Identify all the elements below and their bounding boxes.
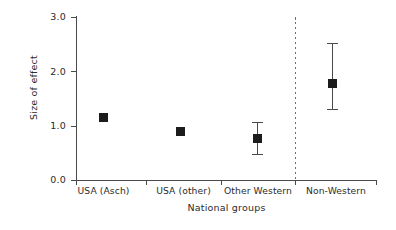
x-tick-end (376, 180, 377, 185)
data-marker-non-western (328, 79, 337, 88)
y-axis-title: Size of effect (28, 28, 39, 148)
western-nonwestern-divider (295, 17, 296, 180)
y-axis-line (76, 16, 77, 181)
x-tick-label-other-western: Other Western (218, 185, 298, 196)
y-tick-2 (71, 71, 76, 72)
x-tick-label-usa-other: USA (other) (146, 185, 221, 196)
x-tick-label-non-western: Non-Western (296, 185, 376, 196)
effect-size-chart: 3.0 2.0 1.0 0.0 USA (Asch) USA (other) O… (0, 0, 396, 230)
x-tick-label-usa-asch: USA (Asch) (66, 185, 141, 196)
y-tick-label-2: 2.0 (50, 66, 66, 77)
data-marker-usa-asch (99, 113, 108, 122)
y-tick-label-3: 3.0 (50, 11, 66, 22)
error-bar-cap-top-non-western (327, 43, 338, 44)
y-tick-label-1: 1.0 (50, 120, 66, 131)
data-marker-usa-other (176, 127, 185, 136)
error-bar-cap-bottom-other-western (252, 154, 263, 155)
y-tick-3 (71, 17, 76, 18)
x-axis-title: National groups (76, 202, 377, 213)
y-tick-1 (71, 126, 76, 127)
error-bar-cap-top-other-western (252, 122, 263, 123)
error-bar-cap-bottom-non-western (327, 109, 338, 110)
error-bar-stem-non-western (332, 43, 333, 110)
data-marker-other-western (253, 134, 262, 143)
y-tick-label-0: 0.0 (50, 174, 66, 185)
x-axis-line (76, 180, 377, 181)
